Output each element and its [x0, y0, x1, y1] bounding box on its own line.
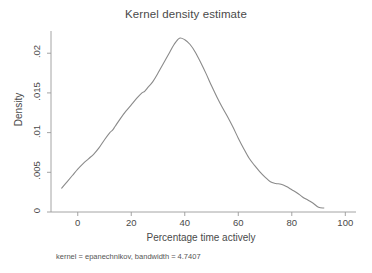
x-tick-label: 0 — [58, 217, 98, 228]
x-tick-label: 80 — [272, 217, 312, 228]
kernel-density-plot: Kernel density estimate 0.005.01.015.02 … — [0, 0, 372, 273]
x-axis-title: Percentage time actively — [51, 232, 351, 243]
y-axis-ticks — [47, 53, 51, 212]
y-axis-title: Density — [13, 80, 24, 140]
x-tick-label: 40 — [165, 217, 205, 228]
x-tick-label: 100 — [325, 217, 365, 228]
y-tick-label: 0 — [31, 191, 42, 231]
x-tick-label: 20 — [111, 217, 151, 228]
y-tick-label: .02 — [31, 32, 42, 72]
chart-footnote: kernel = epanechnikov, bandwidth = 4.740… — [56, 252, 201, 261]
x-tick-label: 60 — [218, 217, 258, 228]
y-tick-label: .015 — [31, 71, 42, 111]
axes-group — [47, 31, 356, 216]
y-tick-label: .01 — [31, 111, 42, 151]
y-tick-label: .005 — [31, 151, 42, 191]
density-curve-line — [62, 38, 324, 208]
x-axis-ticks — [78, 212, 346, 216]
